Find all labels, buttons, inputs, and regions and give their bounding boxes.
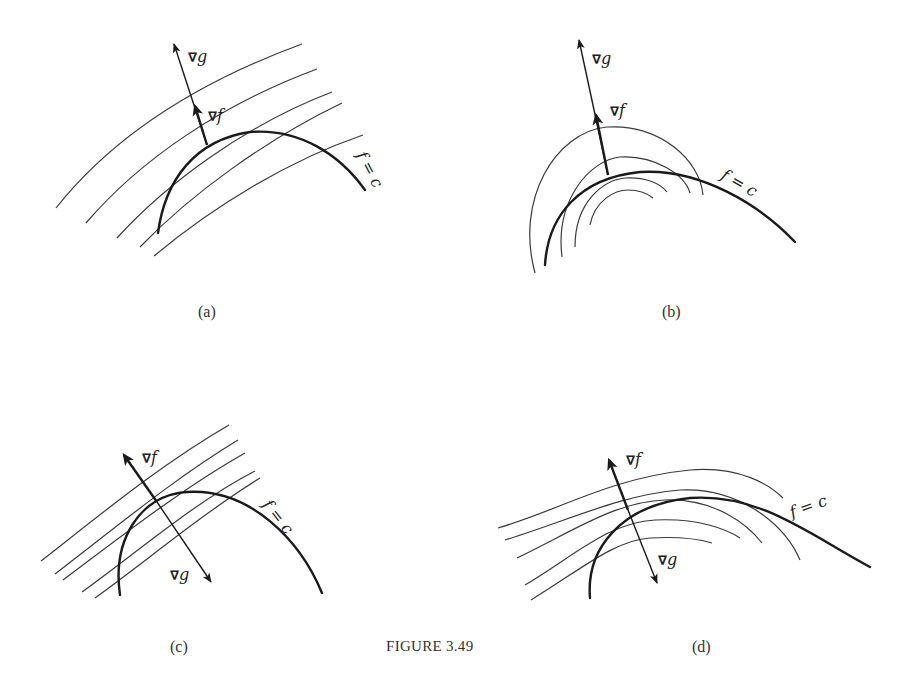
panel-label-c: (c) <box>170 638 188 656</box>
panel-b: ∇g ∇f f = c (b) <box>530 40 795 321</box>
curve-label: f = c <box>786 491 830 522</box>
grad-f-vector <box>195 106 207 145</box>
panel-d: ∇f ∇g f = c (d) <box>498 450 870 656</box>
grad-g-label: ∇g <box>188 47 207 66</box>
panel-label-b: (b) <box>662 303 681 321</box>
grad-f-label: ∇f <box>626 450 644 469</box>
level-curves-g <box>56 44 363 256</box>
panel-c: ∇f ∇g f = c (c) <box>41 425 322 656</box>
grad-g-label: ∇g <box>170 565 189 584</box>
constraint-curve <box>158 132 365 233</box>
grad-g-label: ∇g <box>658 550 677 569</box>
panel-a: ∇g ∇f f = c (a) <box>56 44 387 321</box>
figure-caption: FIGURE 3.49 <box>386 638 473 654</box>
figure-3-49: ∇g ∇f f = c (a) ∇g ∇f f = c (b) ∇f <box>0 0 914 680</box>
constraint-curve <box>119 492 322 595</box>
constraint-curve <box>590 498 870 598</box>
curve-label: f = c <box>717 165 761 201</box>
grad-f-label: ∇f <box>208 106 226 125</box>
panel-label-a: (a) <box>198 303 216 321</box>
curve-label: f = c <box>352 147 387 191</box>
level-curves-g <box>530 127 703 273</box>
grad-f-label: ∇f <box>610 101 628 120</box>
level-curves-g <box>498 469 800 600</box>
panel-label-d: (d) <box>692 638 711 656</box>
grad-g-label: ∇g <box>592 49 611 68</box>
grad-f-label: ∇f <box>142 448 160 467</box>
